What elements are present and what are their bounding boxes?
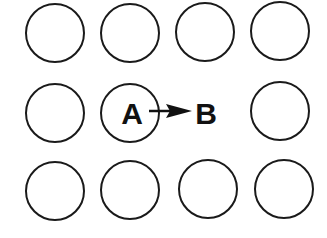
circle-r3-c1 [26,162,84,220]
circle-r3-c4 [255,160,313,218]
arrow-icon [149,104,192,118]
circle-r1-c1 [26,4,84,62]
circle-r1-c2 [101,4,159,62]
circle-r2-c4 [251,82,309,140]
circle-r3-c2 [101,161,159,219]
circle-r1-c3 [176,3,234,61]
label-b: B [195,97,217,130]
circle-r3-c3 [179,160,237,218]
circle-r2-c1 [26,84,84,142]
circle-r1-c4 [251,2,309,60]
label-a: A [121,97,143,130]
diagram-canvas: A B [0,0,327,238]
